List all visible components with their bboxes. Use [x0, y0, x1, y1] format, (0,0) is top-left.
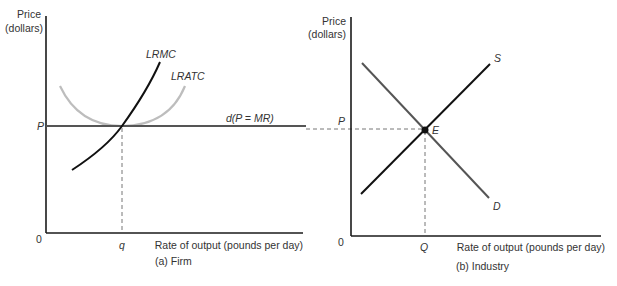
panel-a-y-label-2: (dollars)	[5, 22, 43, 34]
panel-a-quantity-label: q	[119, 239, 125, 251]
lratc-label: LRATC	[171, 70, 205, 82]
panel-a-y-label-1: Price	[17, 8, 41, 20]
diagram-canvas: Price (dollars) 0 P q Rate of output (po…	[0, 0, 617, 286]
panel-b-x-label: Rate of output (pounds per day)	[457, 241, 605, 253]
industry-demand-label: D	[493, 200, 501, 212]
lratc-curve	[60, 86, 185, 126]
panel-a-origin: 0	[36, 233, 42, 245]
lrmc-label: LRMC	[146, 48, 176, 60]
panel-b-origin: 0	[338, 236, 344, 248]
panel-b-price-label: P	[338, 115, 345, 127]
panel-a-x-label: Rate of output (pounds per day)	[155, 239, 303, 251]
panel-a-price-label: P	[37, 120, 44, 132]
panel-b-y-label-2: (dollars)	[308, 28, 346, 40]
supply-label: S	[494, 52, 501, 64]
panel-industry: Price (dollars) 0 P Q Rate of output (po…	[308, 15, 605, 272]
firm-demand-label: d(P = MR)	[226, 112, 274, 124]
panel-b-y-label-1: Price	[322, 15, 346, 27]
panel-a-caption: (a) Firm	[155, 255, 192, 267]
panel-b-quantity-label: Q	[420, 241, 428, 253]
panel-firm: Price (dollars) 0 P q Rate of output (po…	[5, 8, 306, 267]
equilibrium-point	[422, 127, 429, 134]
equilibrium-label: E	[432, 124, 440, 136]
panel-b-caption: (b) Industry	[456, 260, 510, 272]
